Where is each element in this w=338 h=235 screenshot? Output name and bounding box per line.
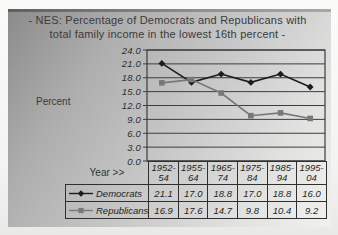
scanned-page: - NES: Percentage of Democrats and Repub… <box>0 0 338 235</box>
year-cell: 1985- 94 <box>267 162 297 185</box>
democrats-legend-cell: Democrats <box>66 185 149 202</box>
year-cell: 1965- 74 <box>208 162 238 185</box>
democrats-legend-label: Democrats <box>96 188 142 199</box>
y-tick-label: 18.0 <box>105 72 141 83</box>
y-tick-label: 6.0 <box>105 128 141 139</box>
republicans-value-cell: 16.9 <box>149 202 179 219</box>
chart-area: - NES: Percentage of Democrats and Repub… <box>8 9 331 227</box>
year-cell: 1955- 64 <box>178 162 208 185</box>
square-marker <box>248 113 254 119</box>
square-marker <box>78 207 83 212</box>
republicans-legend-cell: Republicans <box>66 202 149 219</box>
democrats-line-icon <box>69 189 93 198</box>
democrats-value-cell: 16.0 <box>297 185 327 202</box>
y-tick-label: 0.0 <box>105 156 141 167</box>
data-table: Year >> 1952- 54 1955- 64 1965- 74 1975-… <box>65 161 327 219</box>
republicans-value-cell: 14.7 <box>208 202 238 219</box>
democrats-value-cell: 18.8 <box>267 185 297 202</box>
diamond-marker <box>247 79 254 86</box>
democrats-value-cell: 17.0 <box>178 185 208 202</box>
republicans-line-icon <box>69 206 93 215</box>
republicans-value-cell: 9.2 <box>297 202 327 219</box>
republicans-row: Republicans 16.9 17.6 14.7 9.8 10.4 9.2 <box>66 202 327 219</box>
y-tick-label: 24.0 <box>105 45 141 56</box>
democrats-value-cell: 17.0 <box>238 185 268 202</box>
republicans-series-line <box>162 80 310 119</box>
y-tick-label: 12.0 <box>105 100 141 111</box>
diamond-marker <box>307 84 314 91</box>
republicans-value-cell: 9.8 <box>238 202 268 219</box>
democrats-value-cell: 18.8 <box>208 185 238 202</box>
y-tick-label: 21.0 <box>105 58 141 69</box>
y-tick-label: 3.0 <box>105 142 141 153</box>
y-tick-label: 15.0 <box>105 86 141 97</box>
square-marker <box>159 80 165 86</box>
democrats-series-line <box>162 63 310 87</box>
republicans-legend-label: Republicans <box>96 205 148 216</box>
democrats-row: Democrats 21.1 17.0 18.8 17.0 18.8 16.0 <box>66 185 327 202</box>
democrats-value-cell: 21.1 <box>149 185 179 202</box>
square-marker <box>307 116 313 122</box>
republicans-value-cell: 10.4 <box>267 202 297 219</box>
republicans-value-cell: 17.6 <box>178 202 208 219</box>
square-marker <box>218 90 224 96</box>
square-marker <box>278 110 284 116</box>
square-marker <box>189 77 195 83</box>
diamond-marker <box>218 71 225 78</box>
year-cell: 1975- 84 <box>238 162 268 185</box>
year-cell: 1952- 54 <box>149 162 179 185</box>
year-cell: 1995- 04 <box>297 162 327 185</box>
diamond-marker <box>277 71 284 78</box>
diamond-marker <box>78 190 84 196</box>
y-tick-label: 9.0 <box>105 114 141 125</box>
